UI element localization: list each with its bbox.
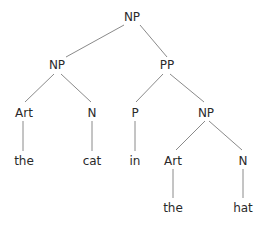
edge-np-left-n (61, 74, 91, 102)
edge-np-right-art (176, 121, 205, 150)
edge-np-root-pp (140, 25, 167, 57)
node-np-root: NP (124, 11, 140, 23)
edge-pp-p (136, 74, 163, 102)
node-np-left: NP (49, 59, 65, 71)
node-n-2: N (239, 155, 248, 167)
node-np-right: NP (198, 107, 214, 119)
leaf-hat: hat (233, 202, 253, 214)
node-art-1: Art (15, 107, 33, 119)
leaf-the-2: the (163, 202, 183, 214)
leaf-the-1: the (14, 155, 34, 167)
node-p: P (131, 107, 138, 119)
node-art-2: Art (164, 155, 182, 167)
node-pp: PP (160, 59, 174, 71)
edge-pp-np-right (170, 74, 204, 102)
edge-np-right-n (209, 121, 242, 150)
leaf-in: in (130, 155, 141, 167)
node-n-1: N (88, 107, 97, 119)
leaf-cat: cat (83, 155, 102, 167)
edge-np-left-art (25, 74, 54, 102)
edge-np-root-np-left (66, 25, 124, 57)
